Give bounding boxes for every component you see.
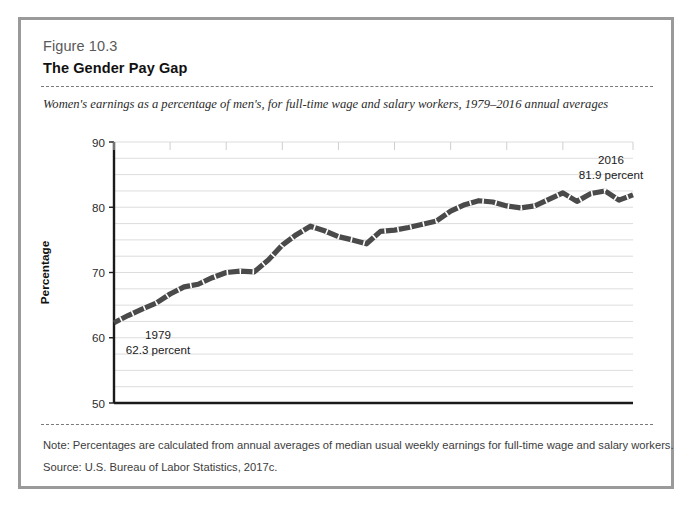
x-tick-label: 1979 xyxy=(101,409,127,412)
footnotes: Note: Percentages are calculated from an… xyxy=(43,434,643,478)
x-tick-labels-group: 1979198319871991199519992003200720112016 xyxy=(101,409,646,412)
line-chart-svg: 5060708090 19791983198719911995199920032… xyxy=(21,112,671,412)
figure-frame: Figure 10.3 The Gender Pay Gap Women's e… xyxy=(18,17,674,489)
annotation-year: 2016 xyxy=(598,153,624,166)
x-tick-marks-group xyxy=(114,142,633,150)
y-axis-title-group: Percentage xyxy=(38,240,52,304)
y-tick-labels-group: 5060708090 xyxy=(92,136,114,410)
x-tick-label: 1999 xyxy=(382,409,408,412)
annotation-year: 1979 xyxy=(145,328,171,341)
x-tick-label: 2007 xyxy=(494,409,520,412)
y-axis-title: Percentage xyxy=(38,240,52,304)
divider-top xyxy=(41,86,653,87)
y-tick-label: 90 xyxy=(92,136,105,149)
figure-subtitle: Women's earnings as a percentage of men'… xyxy=(43,97,608,112)
y-tick-label: 60 xyxy=(92,331,105,344)
divider-bottom xyxy=(41,424,653,425)
x-tick-label: 2003 xyxy=(438,409,464,412)
gridlines-group xyxy=(114,142,633,387)
annotation-value: 81.9 percent xyxy=(579,168,644,181)
x-tick-label: 1991 xyxy=(269,409,295,412)
note-text: Note: Percentages are calculated from an… xyxy=(43,434,643,456)
y-tick-label: 80 xyxy=(92,201,105,214)
x-tick-label: 1983 xyxy=(157,409,183,412)
data-line xyxy=(114,191,633,323)
source-text: Source: U.S. Bureau of Labor Statistics,… xyxy=(43,456,643,478)
y-tick-label: 70 xyxy=(92,266,105,279)
annotation-value: 62.3 percent xyxy=(126,343,191,356)
x-tick-label: 1995 xyxy=(326,409,352,412)
figure-title: The Gender Pay Gap xyxy=(43,60,187,76)
figure-inner: Figure 10.3 The Gender Pay Gap Women's e… xyxy=(21,20,671,486)
data-line-dash-gaps xyxy=(114,191,633,323)
figure-number: Figure 10.3 xyxy=(43,38,117,54)
x-tick-label: 1987 xyxy=(213,409,239,412)
annotations-group: 197962.3 percent201681.9 percent xyxy=(126,153,644,356)
y-tick-label: 50 xyxy=(92,397,105,410)
x-tick-label: 2011 xyxy=(550,409,575,412)
chart-plot-area: 5060708090 19791983198719911995199920032… xyxy=(21,112,671,412)
data-series-group xyxy=(114,191,633,323)
x-tick-label: 2016 xyxy=(620,409,646,412)
